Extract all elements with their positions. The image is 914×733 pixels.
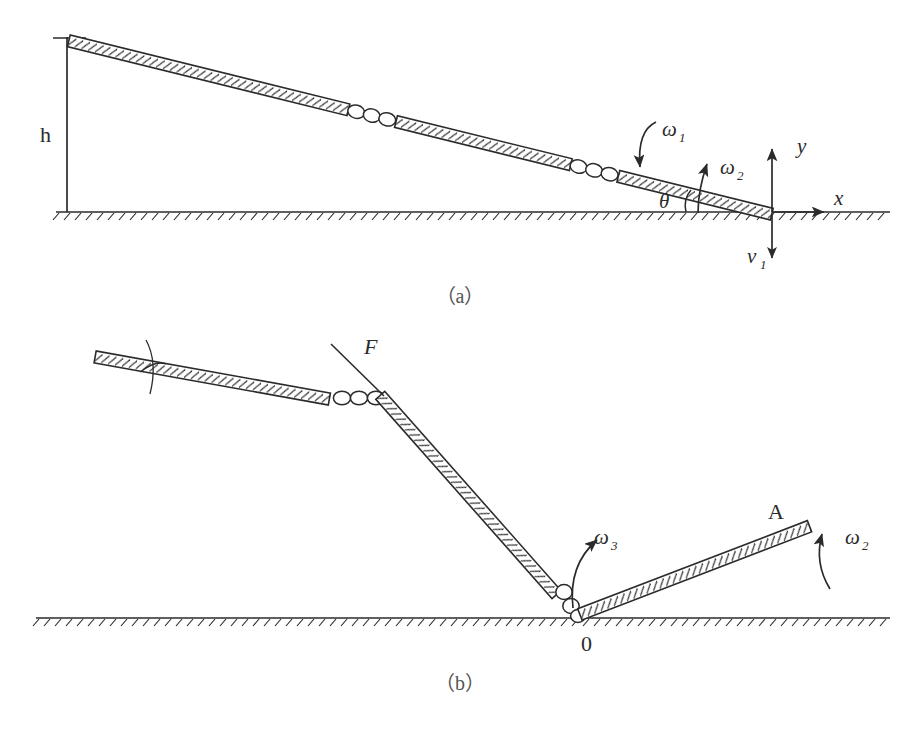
caption-a: （a） [436,285,485,307]
mechanics-figure: h ω 1 ω 2 θ x y v 1 （a） [0,0,914,733]
caption-b: （b） [435,672,485,694]
point-label-A: A [768,499,784,524]
figure-root: h ω 1 ω 2 θ x y v 1 （a） [0,0,914,733]
svg-text:ω: ω [720,155,735,179]
svg-text:ω: ω [662,117,677,141]
svg-text:1: 1 [679,130,686,145]
svg-text:1: 1 [760,257,767,272]
origin-label-0: 0 [581,631,592,656]
svg-text:2: 2 [737,168,744,183]
force-label-F: F [363,334,378,359]
height-label-h: h [40,122,51,147]
svg-text:v: v [747,244,757,268]
svg-text:ω: ω [845,525,860,549]
svg-text:3: 3 [610,538,618,553]
x-axis-label: x [833,186,844,210]
y-axis-label: y [795,134,807,158]
theta-label: θ [659,189,669,213]
svg-text:ω: ω [594,525,609,549]
svg-text:2: 2 [862,538,869,553]
